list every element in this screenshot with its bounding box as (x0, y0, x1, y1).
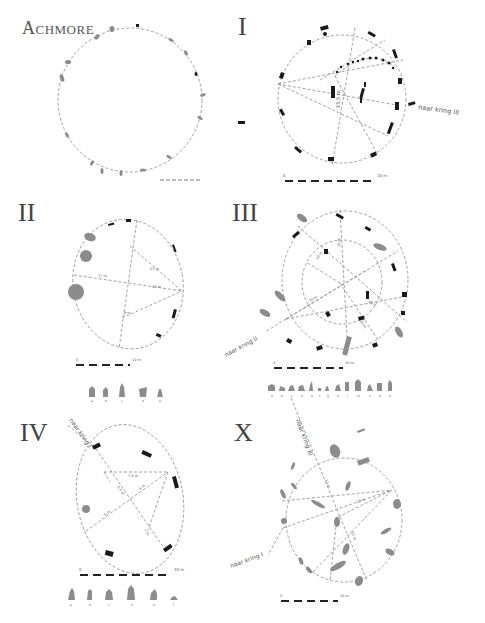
svg-text:f: f (173, 603, 175, 607)
svg-text:b: b (281, 394, 283, 398)
svg-text:7,6 m: 7,6 m (128, 474, 139, 478)
circle-I-plan: 15,5 m naar kring III 0 10 m (238, 25, 460, 181)
svg-text:10 m: 10 m (359, 320, 367, 330)
svg-text:c: c (108, 603, 110, 607)
svg-text:13 m: 13 m (356, 497, 366, 504)
svg-text:13 m: 13 m (350, 531, 357, 541)
svg-text:10 m: 10 m (340, 594, 350, 598)
circle-X-plan: 13 m 13 m 13 m naar kring XI naar kring … (229, 398, 402, 601)
svg-text:e: e (153, 603, 155, 607)
svg-text:6 m: 6 m (138, 483, 146, 490)
stone-profiles-IV: a b c d e f (68, 585, 178, 607)
svg-text:q: q (389, 394, 391, 398)
direction-label-X-north: naar kring XI (294, 418, 315, 457)
svg-text:13 m: 13 m (152, 285, 162, 289)
svg-text:c: c (121, 399, 123, 403)
svg-text:0: 0 (280, 594, 282, 598)
svg-text:10 m: 10 m (174, 567, 184, 572)
stone-profiles-III: a b c d e f g h i m n p q (268, 379, 392, 398)
direction-label-III: naar kring II (223, 335, 259, 359)
svg-text:h: h (337, 394, 339, 398)
circle-II-plan: 17 m 13 m 11 m 9 m 0 10 m a b c d e (63, 210, 194, 403)
svg-text:i: i (347, 394, 348, 398)
svg-text:10 m: 10 m (337, 237, 341, 247)
svg-text:9 m: 9 m (124, 311, 131, 315)
svg-text:n: n (369, 394, 371, 398)
svg-text:c: c (291, 394, 293, 398)
svg-text:13 m: 13 m (324, 479, 331, 489)
measure-I: 15,5 m (335, 90, 341, 108)
circle-III-plan: 10 m 10 m 10 m 10 m 10 m naar kring II 0… (223, 210, 408, 398)
svg-text:10 m: 10 m (345, 361, 355, 365)
direction-label-I: naar kring III (418, 103, 460, 117)
svg-text:10 m: 10 m (377, 173, 387, 178)
svg-text:d: d (142, 399, 144, 403)
svg-text:6,5 m: 6,5 m (116, 485, 125, 496)
svg-text:10 m: 10 m (315, 250, 323, 260)
svg-text:10 m: 10 m (368, 299, 378, 307)
svg-text:b: b (105, 399, 107, 403)
svg-text:d: d (301, 394, 303, 398)
stone-circle-plans: .d{fill:none;stroke:#8a8a8a;stroke-width… (0, 0, 485, 623)
svg-text:a: a (70, 603, 72, 607)
svg-text:p: p (379, 394, 381, 398)
svg-text:e: e (311, 394, 313, 398)
svg-text:17 m: 17 m (98, 274, 108, 278)
svg-text:g: g (327, 394, 329, 398)
circle-IV-plan: 7,6 m 6,5 m 6 m 5 m 7 m naar kring I 0 1… (65, 416, 195, 607)
svg-text:0: 0 (79, 567, 82, 572)
svg-text:m: m (357, 394, 360, 398)
svg-text:0: 0 (76, 358, 78, 362)
svg-text:10 m: 10 m (309, 295, 319, 303)
svg-text:a: a (271, 394, 273, 398)
svg-text:10 m: 10 m (132, 358, 142, 362)
direction-label-X-west: naar kring I (229, 551, 264, 570)
svg-text:11 m: 11 m (150, 267, 160, 271)
svg-text:b: b (89, 603, 91, 607)
svg-text:a: a (91, 399, 93, 403)
svg-text:7 m: 7 m (143, 529, 150, 537)
svg-text:d: d (131, 603, 133, 607)
achmore-plan (58, 24, 206, 180)
svg-text:e: e (159, 399, 161, 403)
svg-text:f: f (319, 394, 321, 398)
svg-text:0: 0 (273, 361, 275, 365)
svg-text:0: 0 (283, 173, 286, 178)
direction-label-IV: naar kring I (67, 417, 93, 450)
stone-profiles-II: a b c d e (89, 383, 163, 403)
